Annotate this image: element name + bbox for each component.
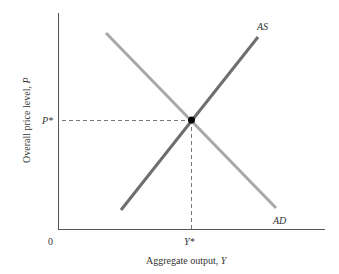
y-star-label: Y* <box>184 236 195 247</box>
as-label: AS <box>256 21 268 32</box>
y-axis-title: Overall price level, P <box>21 77 32 163</box>
origin-label: 0 <box>48 236 53 247</box>
ad-label: AD <box>272 215 287 226</box>
as-ad-chart: AS AD P* Y* 0 Aggregate output, Y Overal… <box>0 0 339 274</box>
p-star-label: P* <box>41 115 53 126</box>
as-curve <box>121 37 258 210</box>
equilibrium-point <box>188 117 195 124</box>
x-axis-title: Aggregate output, Y <box>146 255 228 266</box>
